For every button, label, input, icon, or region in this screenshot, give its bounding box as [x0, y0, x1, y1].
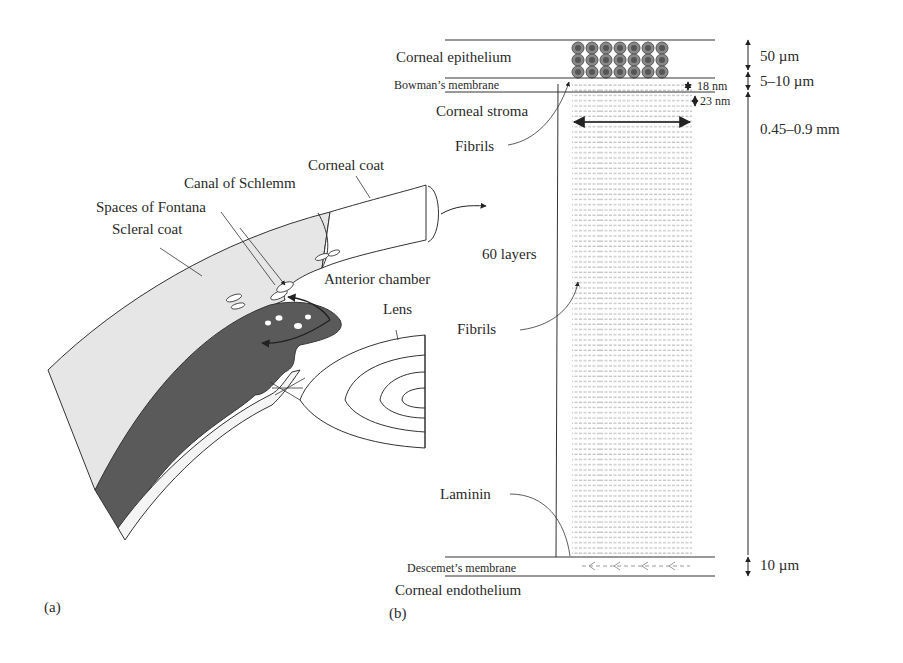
epithelium-cells [572, 42, 668, 78]
expand-arrow [441, 206, 486, 214]
panel-b-tag: (b) [389, 605, 407, 622]
label-23nm: 23 nm [700, 94, 731, 108]
label-descemets-membrane: Descemet’s membrane [407, 561, 516, 575]
dim-descemet: 10 µm [760, 557, 799, 573]
label-lens: Lens [383, 301, 412, 317]
dim-epithelium: 50 µm [760, 48, 799, 64]
label-corneal-endothelium: Corneal endothelium [395, 582, 522, 598]
label-bowmans-membrane: Bowman’s membrane [394, 78, 499, 92]
label-spaces-of-fontana: Spaces of Fontana [96, 199, 206, 215]
label-18nm: 18 nm [697, 79, 728, 93]
panel-a-tag: (a) [44, 599, 61, 616]
label-corneal-stroma: Corneal stroma [436, 103, 528, 119]
label-scleral-coat: Scleral coat [112, 221, 183, 237]
label-fibrils-top: Fibrils [455, 138, 494, 154]
dim-stroma: 0.45–0.9 mm [760, 121, 840, 137]
corneal-coat-shape [322, 185, 426, 268]
label-fibrils-mid: Fibrils [457, 321, 496, 337]
label-corneal-coat: Corneal coat [308, 157, 385, 173]
stroma-fibrils [572, 81, 692, 557]
label-60-layers: 60 layers [482, 246, 537, 262]
cornea-diagram: Corneal coat Canal of Schlemm Spaces of … [0, 0, 903, 663]
label-corneal-epithelium: Corneal epithelium [396, 49, 512, 65]
dim-bowman: 5–10 µm [760, 73, 814, 89]
label-laminin: Laminin [440, 486, 491, 502]
label-canal-of-schlemm: Canal of Schlemm [184, 175, 296, 191]
label-anterior-chamber: Anterior chamber [324, 271, 430, 287]
